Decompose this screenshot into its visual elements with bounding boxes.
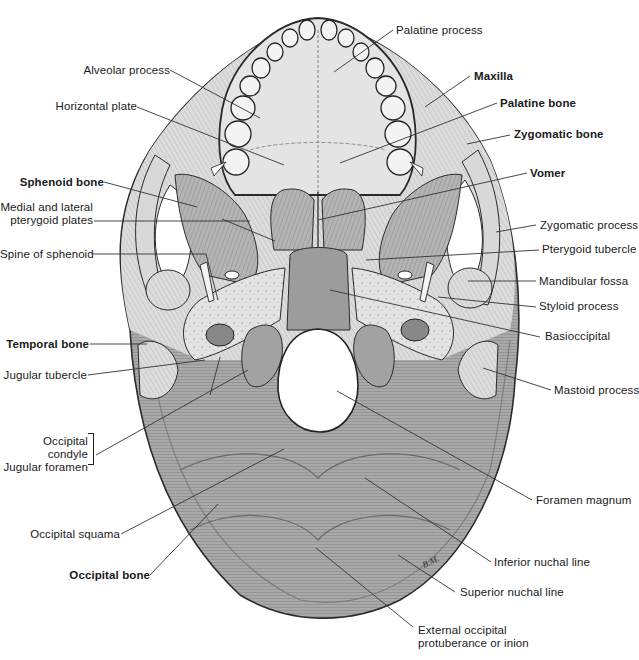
label-horizontal-plate: Horizontal plate	[20, 100, 137, 113]
label-jugular-tubercle: Jugular tubercle	[0, 369, 87, 382]
label-alveolar-process: Alveolar process	[36, 64, 170, 77]
label-spine-of-sphenoid: Spine of sphenoid	[0, 248, 92, 261]
label-occipital-condyle: Occipital condyle	[0, 435, 88, 461]
label-jugular-foramen: Jugular foramen	[0, 461, 88, 474]
label-vomer: Vomer	[530, 167, 565, 180]
basioccipital	[287, 248, 350, 331]
label-external-occipital-protuberance: External occipital protuberance or inion	[418, 624, 578, 650]
label-mandibular-fossa: Mandibular fossa	[539, 275, 628, 288]
label-palatine-bone: Palatine bone	[500, 97, 576, 110]
label-occipital-condyle-jugular-foramen: Occipital condyle Jugular foramen	[0, 435, 88, 474]
label-superior-nuchal-line: Superior nuchal line	[460, 586, 564, 599]
label-mastoid-process: Mastoid process	[554, 384, 639, 397]
label-palatine-process: Palatine process	[396, 24, 483, 37]
label-pterygoid-plates: Medial and lateral pterygoid plates	[0, 201, 93, 227]
label-basioccipital: Basioccipital	[545, 330, 610, 343]
label-temporal-bone: Temporal bone	[0, 338, 89, 351]
label-zygomatic-bone: Zygomatic bone	[514, 128, 604, 141]
label-external-occipital-line1: External occipital	[418, 624, 578, 637]
bracket	[88, 433, 94, 465]
label-styloid-process: Styloid process	[539, 300, 618, 313]
label-foramen-magnum: Foramen magnum	[536, 494, 631, 507]
label-pterygoid-tubercle: Pterygoid tubercle	[542, 243, 637, 256]
label-external-occipital-line2: protuberance or inion	[418, 637, 578, 650]
label-inferior-nuchal-line: Inferior nuchal line	[494, 556, 590, 569]
label-pterygoid-plates-line1: Medial and lateral	[0, 201, 93, 214]
choanae	[271, 189, 365, 252]
label-maxilla: Maxilla	[474, 70, 513, 83]
label-occipital-bone: Occipital bone	[0, 569, 150, 582]
label-pterygoid-plates-line2: pterygoid plates	[0, 214, 93, 227]
label-zygomatic-process: Zygomatic process	[540, 219, 638, 232]
label-sphenoid-bone: Sphenoid bone	[0, 176, 104, 189]
label-occipital-squama: Occipital squama	[0, 528, 120, 541]
foramen-magnum	[278, 329, 358, 432]
